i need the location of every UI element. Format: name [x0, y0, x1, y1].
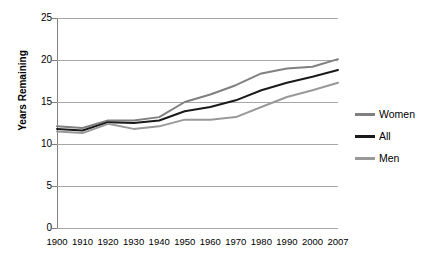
y-axis-tick-label: 15: [6, 97, 52, 107]
x-axis-tick-label: 2007: [325, 236, 351, 247]
y-axis-tick-label: 5: [6, 181, 52, 191]
line-chart: Years Remaining 0510152025 1900191019201…: [0, 0, 433, 265]
y-axis-tick-label: 25: [6, 13, 52, 23]
legend-swatch-men: [355, 157, 375, 160]
y-axis-tick-labels: 0510152025: [0, 0, 52, 265]
series-lines: [57, 18, 338, 228]
x-axis-tick-label: 1980: [248, 236, 274, 247]
legend-item-women[interactable]: Women: [355, 104, 433, 124]
y-axis-tick-label: 0: [6, 223, 52, 233]
legend-item-all[interactable]: All: [355, 126, 433, 146]
gridline: [57, 228, 338, 229]
y-axis-tick-label: 10: [6, 139, 52, 149]
legend-swatch-women: [355, 113, 375, 116]
legend-item-men[interactable]: Men: [355, 148, 433, 168]
x-axis-tick-label: 1990: [274, 236, 300, 247]
x-axis-tick-label: 2000: [299, 236, 325, 247]
y-axis-tick-label: 20: [6, 55, 52, 65]
legend-label: All: [379, 130, 391, 142]
x-axis-tick-label: 1940: [146, 236, 172, 247]
x-axis-tick-label: 1960: [197, 236, 223, 247]
x-axis-tick-label: 1900: [44, 236, 70, 247]
series-line-all: [57, 70, 338, 130]
plot-area: [57, 18, 338, 228]
legend-label: Men: [379, 152, 399, 164]
x-axis-tick-label: 1920: [95, 236, 121, 247]
x-axis-tick-label: 1910: [70, 236, 96, 247]
legend-swatch-all: [355, 135, 375, 138]
x-axis-tick-labels: 1900191019201930194019501960197019801990…: [57, 236, 338, 252]
x-axis-tick-label: 1970: [223, 236, 249, 247]
x-axis-tick-label: 1950: [172, 236, 198, 247]
chart-legend: WomenAllMen: [355, 104, 433, 170]
x-axis-tick-label: 1930: [121, 236, 147, 247]
legend-label: Women: [379, 108, 415, 120]
